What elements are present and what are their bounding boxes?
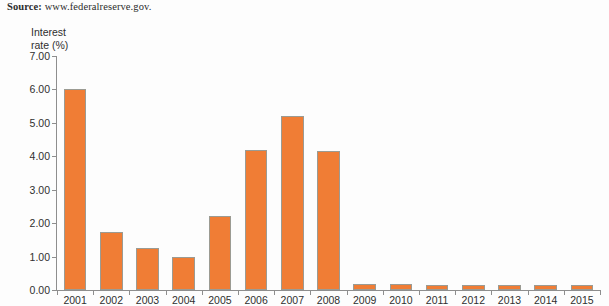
x-axis-tick — [202, 291, 203, 295]
x-axis-label-2011: 2011 — [426, 294, 449, 306]
x-axis-tick — [564, 291, 565, 295]
x-axis-label-2010: 2010 — [389, 294, 412, 306]
y-axis-tick — [52, 89, 57, 90]
y-axis-label: 1.00 — [2, 251, 50, 263]
x-axis-tick — [383, 291, 384, 295]
x-axis-tick — [528, 291, 529, 295]
x-axis-tick — [419, 291, 420, 295]
bar-2012 — [462, 285, 484, 290]
x-axis-label-2008: 2008 — [317, 294, 340, 306]
y-axis-label: 4.00 — [2, 150, 50, 162]
y-axis-tick — [52, 56, 57, 57]
bar-2005 — [209, 216, 231, 290]
x-axis-label-2002: 2002 — [100, 294, 123, 306]
x-axis-label-2005: 2005 — [208, 294, 231, 306]
bar-2015 — [571, 285, 593, 290]
bar-series — [57, 56, 600, 290]
y-axis-label: 7.00 — [2, 50, 50, 62]
x-axis-label-2013: 2013 — [498, 294, 521, 306]
x-axis-tick — [166, 291, 167, 295]
bar-2011 — [426, 285, 448, 290]
x-axis-tick — [93, 291, 94, 295]
y-axis-tick — [52, 190, 57, 191]
source-url: www.federalreserve.gov. — [45, 1, 152, 12]
x-axis-label-2003: 2003 — [136, 294, 159, 306]
y-axis-tick — [52, 123, 57, 124]
x-axis-tick — [57, 291, 58, 295]
bar-2003 — [136, 248, 158, 290]
bar-2010 — [390, 284, 412, 290]
x-axis-tick — [274, 291, 275, 295]
x-axis-label-2012: 2012 — [462, 294, 485, 306]
x-axis-line — [56, 290, 601, 291]
x-axis-tick — [129, 291, 130, 295]
x-axis-label-2014: 2014 — [534, 294, 557, 306]
y-axis-tick — [52, 223, 57, 224]
y-axis-label: 3.00 — [2, 184, 50, 196]
y-axis-title-line2: rate (%) — [31, 39, 68, 51]
bar-2008 — [317, 151, 339, 290]
y-axis-label: 2.00 — [2, 217, 50, 229]
x-axis-tick — [347, 291, 348, 295]
y-axis-title-line1: Interest — [31, 26, 66, 38]
x-axis-label-2004: 2004 — [172, 294, 195, 306]
bar-2009 — [353, 284, 375, 290]
source-label: Source: — [7, 1, 42, 12]
bar-chart: Interestrate (%) 0.001.002.003.004.005.0… — [0, 22, 609, 301]
y-axis-label: 6.00 — [2, 83, 50, 95]
x-axis-label-2009: 2009 — [353, 294, 376, 306]
x-axis-tick — [491, 291, 492, 295]
x-axis-tick — [238, 291, 239, 295]
bar-2006 — [245, 150, 267, 290]
x-axis-label-2007: 2007 — [281, 294, 304, 306]
x-axis-label-2015: 2015 — [570, 294, 593, 306]
source-credit: Source: www.federalreserve.gov. — [7, 1, 151, 12]
x-axis-tick — [455, 291, 456, 295]
x-axis-tick — [310, 291, 311, 295]
y-axis-tick — [52, 156, 57, 157]
y-axis-label: 0.00 — [2, 284, 50, 296]
bar-2001 — [64, 89, 86, 290]
x-axis-label-2006: 2006 — [244, 294, 267, 306]
bar-2013 — [498, 285, 520, 290]
y-axis-title: Interestrate (%) — [31, 26, 68, 51]
bar-2007 — [281, 116, 303, 290]
y-axis-label: 5.00 — [2, 117, 50, 129]
x-axis-tick — [600, 291, 601, 295]
bar-2004 — [172, 257, 194, 290]
bar-2014 — [534, 285, 556, 290]
y-axis-tick — [52, 257, 57, 258]
bar-2002 — [100, 232, 122, 291]
x-axis-label-2001: 2001 — [63, 294, 86, 306]
